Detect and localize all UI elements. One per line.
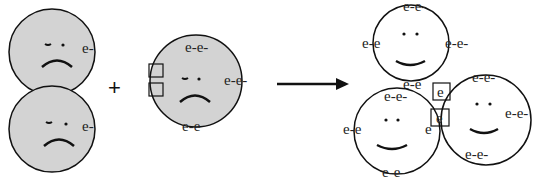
reaction-arrow-icon (277, 78, 349, 90)
reactant-atom-2: e- (9, 86, 95, 172)
plus-operator: + (108, 75, 121, 100)
electron-label-left: e-e (362, 35, 381, 51)
reactant-atom-3: e-e- e-e- e-e (149, 35, 247, 134)
shared-electron: e (437, 84, 444, 100)
electron-label-right: e-e- (505, 105, 528, 121)
product-atom-right: e-e- e-e- e-e- (441, 69, 531, 165)
electron-label-right: e-e- (224, 72, 247, 88)
electron-label-bottom: e-e (182, 118, 201, 134)
electron-label: e- (82, 118, 94, 134)
electron-label: e- (82, 40, 94, 56)
electron-label-bottom: e-e- (465, 146, 488, 162)
shared-electron: e (436, 110, 443, 126)
product-atom-top: e-e- e-e e-e- e-e (362, 0, 468, 92)
electron-label-top: e-e- (403, 0, 426, 14)
reactant-atom-1: e- (9, 9, 95, 95)
electron-label-right: e-e- (445, 35, 468, 51)
electron-label-top: e-e- (185, 39, 208, 55)
electron-label-top: e-e- (472, 69, 495, 85)
electron-label-left: e-e (343, 121, 362, 137)
electron-label-top: e-e- (384, 88, 407, 104)
product-atom-bottom-left: e-e- e-e e e-e- (343, 88, 440, 180)
electron-label-bottom: e-e- (382, 164, 405, 180)
bonding-diagram: e- e- + e-e- e-e- e-e (0, 0, 534, 180)
